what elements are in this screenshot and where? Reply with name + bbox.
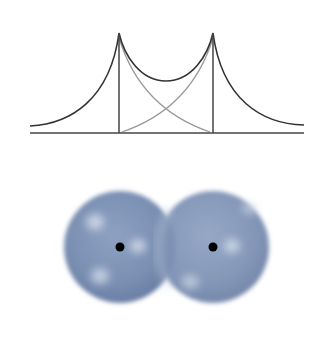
right-nucleus-dot: [209, 243, 218, 252]
left-atom-individual-curve: [119, 38, 210, 132]
overlapping-orbitals: [0, 160, 320, 343]
wavefunction-overlap-plot: [0, 0, 320, 150]
right-atom-individual-curve: [122, 38, 213, 132]
left-nucleus-dot: [116, 243, 125, 252]
combined-curve: [30, 33, 304, 126]
